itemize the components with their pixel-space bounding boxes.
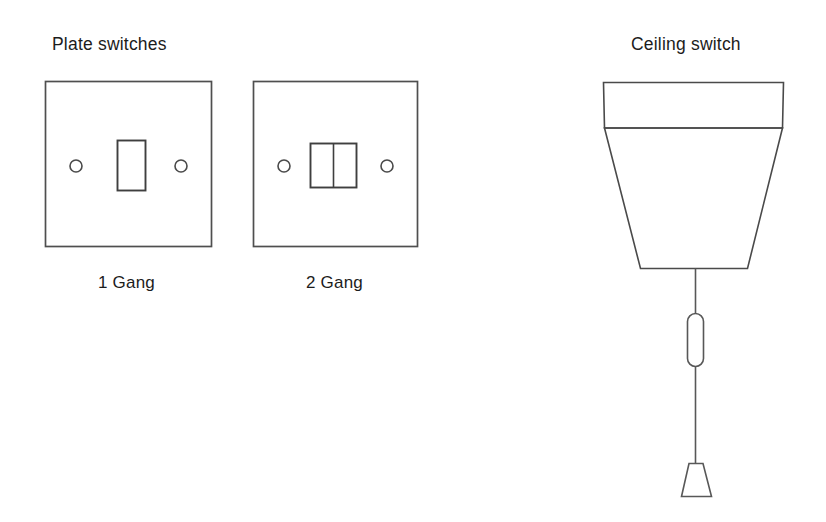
pull-handle[interactable] xyxy=(682,464,712,497)
caption-1-gang: 1 Gang xyxy=(98,273,155,292)
rocker-switch-1-gang[interactable] xyxy=(118,141,146,191)
ceiling-switch-heading: Ceiling switch xyxy=(631,34,741,54)
rocker-switch-2-gang-right[interactable] xyxy=(334,144,357,188)
screw-hole-left-2-gang xyxy=(278,160,290,172)
rocker-switch-2-gang-left[interactable] xyxy=(311,144,334,188)
cord-bead[interactable] xyxy=(688,314,704,367)
ceiling-mount-band xyxy=(604,83,784,129)
screw-hole-right-1-gang xyxy=(175,160,187,172)
screw-hole-right-2-gang xyxy=(381,160,393,172)
switch-types-diagram: Plate switches Ceiling switch 1 Gang 2 G… xyxy=(0,0,826,522)
plate-switch-1-gang xyxy=(46,82,212,247)
ceiling-switch-body xyxy=(605,128,783,269)
screw-hole-left-1-gang xyxy=(70,160,82,172)
plate-switches-heading: Plate switches xyxy=(52,34,167,54)
caption-2-gang: 2 Gang xyxy=(306,273,363,292)
diagram-canvas: Plate switches Ceiling switch 1 Gang 2 G… xyxy=(0,0,826,522)
ceiling-switch-assembly xyxy=(604,83,784,497)
plate-switch-2-gang xyxy=(254,82,418,247)
